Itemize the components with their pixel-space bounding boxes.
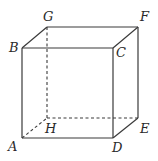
edge-AH-hidden [22, 118, 47, 138]
vertex-label-H: H [44, 121, 57, 136]
vertex-label-A: A [7, 139, 17, 154]
cube-diagram: G F B C H E A D [0, 0, 158, 161]
edge-BG [22, 27, 47, 48]
vertex-label-G: G [43, 9, 53, 24]
vertex-label-D: D [111, 140, 123, 155]
vertex-label-C: C [116, 45, 126, 60]
vertex-label-E: E [139, 121, 150, 136]
edge-ED [113, 118, 138, 138]
vertex-label-F: F [139, 9, 150, 24]
vertex-label-B: B [8, 40, 19, 55]
